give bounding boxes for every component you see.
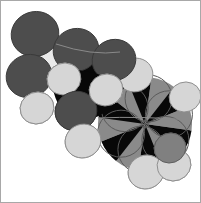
- molecular-model-figure: Space-filling molecular model: [0, 0, 201, 203]
- molecule-render-canvas: [0, 0, 201, 203]
